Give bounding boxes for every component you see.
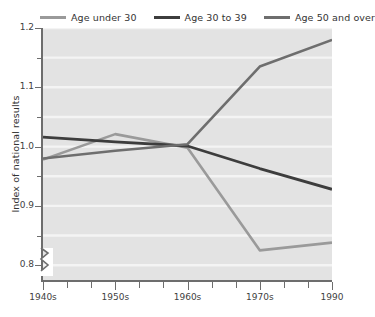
x-tick-minor: [139, 282, 140, 288]
legend-entry-age-50-and-over[interactable]: Age 50 and over: [264, 12, 375, 23]
x-axis-line: [41, 280, 332, 282]
y-tick-minor: [37, 117, 43, 118]
data-series-layer: [43, 28, 332, 280]
legend-swatch-age-50-and-over: [264, 16, 290, 19]
y-axis-title: Index of national results: [9, 28, 23, 280]
chart-legend: Age under 30 Age 30 to 39 Age 50 and ove…: [40, 10, 336, 24]
x-tick-minor: [212, 282, 213, 288]
legend-label-age-50-and-over: Age 50 and over: [295, 12, 375, 23]
y-tick-minor: [37, 176, 43, 177]
x-tick-major: [115, 282, 116, 290]
legend-entry-age-30-to-39[interactable]: Age 30 to 39: [154, 12, 247, 23]
legend-label-age-under-30: Age under 30: [71, 12, 137, 23]
x-tick-label: 1970s: [246, 292, 274, 302]
x-tick-minor: [91, 282, 92, 288]
x-tick-label: 1940s: [29, 292, 57, 302]
legend-swatch-age-30-to-39: [154, 16, 180, 19]
series-line-age-under-30: [43, 134, 332, 250]
y-tick-major: [35, 206, 43, 207]
x-tick-label: 1950s: [102, 292, 130, 302]
x-tick-minor: [284, 282, 285, 288]
plot-area: [43, 28, 332, 280]
x-tick-label: 1990: [321, 292, 344, 302]
y-tick-minor: [37, 236, 43, 237]
x-tick-label: 1960s: [174, 292, 202, 302]
x-tick-minor: [163, 282, 164, 288]
y-tick-minor: [37, 58, 43, 59]
y-axis-line: [41, 28, 43, 280]
x-tick-major: [332, 282, 333, 290]
y-tick-major: [35, 265, 43, 266]
x-tick-major: [188, 282, 189, 290]
x-tick-major: [260, 282, 261, 290]
x-tick-major: [43, 282, 44, 290]
x-tick-minor: [236, 282, 237, 288]
x-tick-minor: [67, 282, 68, 288]
y-axis-break-icon: [33, 247, 53, 277]
legend-swatch-age-under-30: [40, 16, 66, 19]
y-tick-major: [35, 87, 43, 88]
legend-entry-age-under-30[interactable]: Age under 30: [40, 12, 137, 23]
legend-label-age-30-to-39: Age 30 to 39: [185, 12, 247, 23]
y-tick-major: [35, 147, 43, 148]
y-tick-major: [35, 28, 43, 29]
x-tick-minor: [308, 282, 309, 288]
